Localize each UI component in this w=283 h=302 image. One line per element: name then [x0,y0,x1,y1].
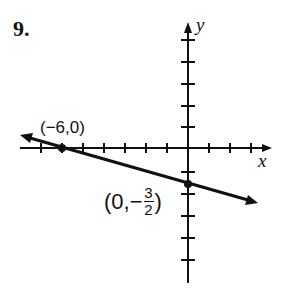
fraction-numerator: 3 [144,186,152,200]
coordinate-plane [0,0,283,302]
y-intercept-label: (0,− 3 2 ) [104,186,162,217]
fraction: 3 2 [144,186,154,217]
point-x-intercept [58,144,66,152]
point-y-intercept [184,180,192,188]
y-intercept-suffix: ) [155,189,162,215]
x-intercept-label: (−6,0) [40,118,85,138]
y-axis [181,22,195,283]
y-intercept-prefix: (0,− [104,189,143,215]
y-axis-label: y [196,14,204,36]
x-axis-label: x [258,150,266,172]
fraction-denominator: 2 [144,203,152,217]
